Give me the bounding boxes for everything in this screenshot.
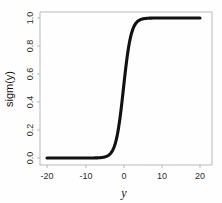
- x-tick-label-1: -10: [79, 171, 92, 181]
- y-axis-title: sigm(y): [3, 71, 15, 107]
- y-tick-label-5: 1.0: [25, 12, 35, 25]
- y-tick-label-2: 0.4: [25, 96, 35, 109]
- y-tick-label-3: 0.6: [25, 68, 35, 81]
- y-tick-label-4: 0.8: [25, 40, 35, 53]
- x-tick-label-3: 10: [157, 171, 167, 181]
- y-tick-label-0: 0.0: [25, 152, 35, 165]
- x-tick-label-0: -20: [40, 171, 53, 181]
- sigmoid-chart-figure: 0.0 0.2 0.4 0.6 0.8 1.0 sigm(y) -20 -10 …: [0, 0, 222, 203]
- plot-area-svg: 0.0 0.2 0.4 0.6 0.8 1.0 sigm(y) -20 -10 …: [0, 0, 222, 203]
- x-axis-title: y: [120, 186, 127, 200]
- x-tick-label-2: 0: [121, 171, 126, 181]
- y-tick-label-1: 0.2: [25, 124, 35, 137]
- x-tick-label-4: 20: [195, 171, 205, 181]
